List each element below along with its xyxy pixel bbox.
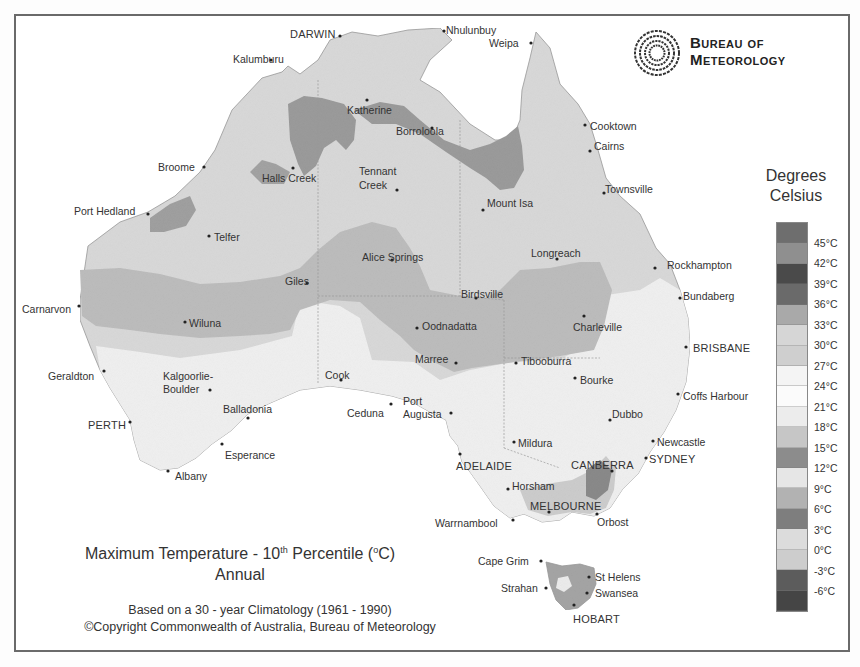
town-marker-dot (583, 123, 586, 126)
town-label: Mount Isa (487, 197, 533, 209)
town-marker-dot (644, 456, 647, 459)
town-marker-dot (102, 369, 105, 372)
map-subtitle: Annual (40, 564, 440, 585)
town-marker-dot (449, 411, 452, 414)
town-label: Charleville (573, 321, 622, 333)
legend-band (777, 264, 807, 284)
town-marker-dot (587, 575, 590, 578)
legend-label: 27°C (814, 360, 837, 372)
town-marker-dot (458, 452, 461, 455)
town-label: St Helens (595, 571, 641, 583)
town-marker-dot (678, 296, 681, 299)
town-marker-dot (395, 188, 398, 191)
town-marker-dot (588, 149, 591, 152)
legend-label: 21°C (814, 401, 837, 413)
title-sup: th (280, 545, 288, 555)
legend-label: 6°C (814, 503, 832, 515)
town-marker-dot (544, 586, 547, 589)
town-marker-dot (529, 41, 532, 44)
bom-logo-text: Bureau of Meteorology (690, 34, 786, 68)
town-label: Cape Grim (478, 555, 529, 567)
town-marker-dot (207, 234, 210, 237)
town-label: Bundaberg (683, 290, 734, 302)
legend-band (777, 284, 807, 304)
town-label: SYDNEY (649, 453, 695, 465)
town-marker-dot (582, 314, 585, 317)
legend-label: 30°C (814, 339, 837, 351)
town-marker-dot (128, 420, 131, 423)
town-marker-dot (338, 34, 341, 37)
town-label: Bourke (580, 374, 613, 386)
town-label: Albany (175, 470, 207, 482)
town-marker-dot (166, 469, 169, 472)
legend-band (777, 591, 807, 611)
legend-label: 36°C (814, 298, 837, 310)
town-label: Halls Creek (262, 172, 316, 184)
town-label: Alice Springs (362, 251, 423, 263)
town-label: Katherine (347, 104, 392, 116)
legend-band (777, 407, 807, 427)
town-label: Tibooburra (521, 355, 571, 367)
town-label: Carnarvon (22, 303, 71, 315)
footer: Based on a 30 - year Climatology (1961 -… (40, 602, 480, 636)
legend-band (777, 325, 807, 345)
town-label: Weipa (489, 37, 519, 49)
town-marker-dot (651, 439, 654, 442)
bom-logo: Bureau of Meteorology (632, 28, 852, 78)
legend-band (777, 509, 807, 529)
legend-label: 39°C (814, 278, 837, 290)
legend-title-line1: Degrees (748, 166, 844, 186)
town-label: DARWIN (290, 28, 336, 40)
legend-color-bar (776, 222, 808, 612)
logo-line1: Bureau of (690, 34, 786, 51)
town-label: Borroloola (396, 125, 444, 137)
town-label: Horsham (512, 480, 555, 492)
town-label: Oodnadatta (422, 320, 477, 332)
town-label: Balladonia (223, 403, 272, 415)
town-label: Cairns (594, 140, 624, 152)
town-marker-dot (291, 166, 294, 169)
legend-band (777, 386, 807, 406)
town-marker-dot (512, 440, 515, 443)
legend-band (777, 550, 807, 570)
town-label: Augusta (403, 408, 442, 420)
legend-label: 15°C (814, 442, 837, 454)
town-label: Ceduna (347, 407, 384, 419)
legend-label: 9°C (814, 483, 832, 495)
town-marker-dot (389, 402, 392, 405)
town-marker-dot (202, 165, 205, 168)
footer-climatology: Based on a 30 - year Climatology (1961 -… (40, 602, 480, 619)
legend-band (777, 448, 807, 468)
legend-label: -6°C (814, 585, 835, 597)
town-marker-dot (511, 518, 514, 521)
town-marker-dot (572, 603, 575, 606)
legend-label: 45°C (814, 237, 837, 249)
town-label: Tennant (359, 165, 396, 177)
legend-band (777, 529, 807, 549)
town-label: Boulder (163, 383, 199, 395)
town-label: Port Hedland (74, 205, 135, 217)
town-label: Newcastle (657, 436, 705, 448)
town-marker-dot (676, 392, 679, 395)
legend-label: 24°C (814, 380, 837, 392)
town-marker-dot (183, 320, 186, 323)
legend-label: 18°C (814, 421, 837, 433)
legend-label: 0°C (814, 544, 832, 556)
town-label: Cooktown (590, 120, 637, 132)
legend-band (777, 346, 807, 366)
legend-label: 12°C (814, 462, 837, 474)
town-label: Port (403, 395, 422, 407)
town-label: HOBART (573, 613, 620, 625)
map-title-main: Maximum Temperature - 10th Percentile (o… (40, 540, 440, 564)
town-label: CANBERRA (571, 459, 634, 471)
town-label: Rockhampton (667, 259, 732, 271)
town-label: Orbost (597, 516, 629, 528)
town-label: Coffs Harbour (683, 390, 748, 402)
town-label: Marree (415, 353, 448, 365)
town-label: Strahan (501, 582, 538, 594)
legend-title-line2: Celsius (748, 186, 844, 206)
town-label: PERTH (88, 419, 126, 431)
town-label: Wiluna (189, 317, 221, 329)
legend-label: 3°C (814, 524, 832, 536)
town-marker-dot (454, 361, 457, 364)
